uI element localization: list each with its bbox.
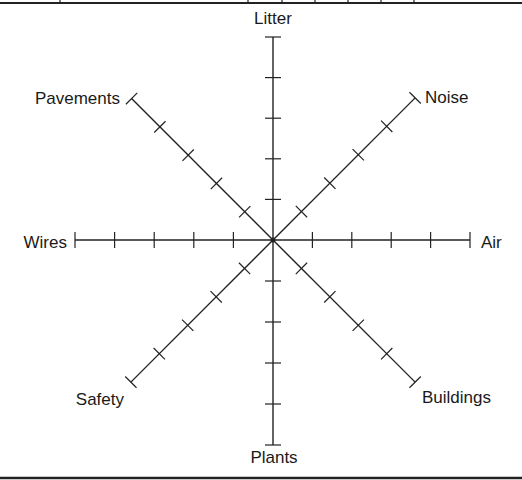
axis-air [273, 232, 470, 248]
axis-line [131, 240, 273, 382]
axis-plants [265, 240, 281, 445]
axis-label-plants: Plants [250, 448, 297, 467]
radar-axes-canvas: LitterNoiseAirBuildingsPlantsSafetyWires… [0, 0, 522, 480]
axis-pavements [126, 93, 273, 240]
axes-group [75, 37, 470, 445]
axis-label-litter: Litter [254, 9, 292, 28]
axis-litter [265, 37, 281, 240]
axis-wires [75, 232, 273, 248]
center-point [271, 238, 276, 243]
axis-label-pavements: Pavements [35, 89, 120, 108]
axis-line [273, 240, 415, 382]
axis-noise [273, 92, 421, 240]
axis-label-buildings: Buildings [422, 388, 491, 407]
axis-label-safety: Safety [76, 390, 125, 409]
radar-diagram: LitterNoiseAirBuildingsPlantsSafetyWires… [0, 0, 522, 480]
axis-safety [125, 240, 273, 388]
axis-label-wires: Wires [24, 233, 67, 252]
axis-label-air: Air [481, 233, 502, 252]
axis-buildings [273, 240, 421, 388]
axis-label-noise: Noise [425, 88, 468, 107]
axis-line [132, 99, 273, 240]
axis-line [273, 98, 415, 240]
